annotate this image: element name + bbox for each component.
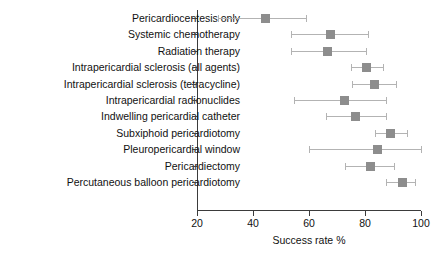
ci-lower-cap bbox=[345, 163, 346, 170]
data-point-marker bbox=[366, 162, 375, 171]
ci-upper-cap bbox=[383, 64, 384, 71]
ci-lower-cap bbox=[352, 81, 353, 88]
x-tick-mark bbox=[309, 211, 310, 216]
ci-upper-cap bbox=[386, 97, 387, 104]
data-point-marker bbox=[373, 145, 382, 154]
ci-upper-cap bbox=[415, 179, 416, 186]
ci-upper-cap bbox=[368, 31, 369, 38]
table-row: Pericardiectomy bbox=[0, 158, 436, 174]
confidence-interval-line bbox=[309, 149, 421, 150]
data-point-marker bbox=[351, 112, 360, 121]
y-axis-tick bbox=[192, 51, 197, 52]
row-label-2: Radiation therapy bbox=[158, 43, 240, 59]
ci-lower-cap bbox=[291, 48, 292, 55]
data-point-marker bbox=[323, 47, 332, 56]
table-row: Indwelling pericardial catheter bbox=[0, 108, 436, 124]
table-row: Subxiphoid pericardiotomy bbox=[0, 125, 436, 141]
row-label-4: Intrapericardial sclerosis (tetracycline… bbox=[64, 76, 240, 92]
ci-lower-cap bbox=[351, 64, 352, 71]
ci-upper-cap bbox=[396, 81, 397, 88]
data-point-marker bbox=[386, 129, 395, 138]
plot-area: Pericardiocentesis onlySystemic chemothe… bbox=[0, 0, 436, 257]
ci-upper-cap bbox=[421, 146, 422, 153]
x-tick-label: 80 bbox=[359, 217, 371, 229]
ci-upper-cap bbox=[386, 113, 387, 120]
ci-upper-cap bbox=[366, 48, 367, 55]
table-row: Radiation therapy bbox=[0, 43, 436, 59]
table-row: Pericardiocentesis only bbox=[0, 10, 436, 26]
y-axis-tick bbox=[192, 133, 197, 134]
ci-lower-cap bbox=[291, 31, 292, 38]
ci-lower-cap bbox=[326, 113, 327, 120]
row-label-9: Pericardiectomy bbox=[165, 158, 240, 174]
row-label-5: Intrapericardial radionuclides bbox=[106, 92, 240, 108]
table-row: Systemic chemotherapy bbox=[0, 26, 436, 42]
forest-plot-figure: Pericardiocentesis onlySystemic chemothe… bbox=[0, 0, 436, 257]
data-point-marker bbox=[362, 63, 371, 72]
row-label-8: Pleuropericardial window bbox=[123, 141, 240, 157]
y-axis-tick bbox=[192, 149, 197, 150]
ci-lower-cap bbox=[375, 130, 376, 137]
y-axis-tick bbox=[192, 116, 197, 117]
row-label-7: Subxiphoid pericardiotomy bbox=[116, 125, 240, 141]
ci-upper-cap bbox=[394, 163, 395, 170]
row-label-6: Indwelling pericardial catheter bbox=[101, 108, 240, 124]
table-row: Intrapericardial sclerosis (all agents) bbox=[0, 59, 436, 75]
x-tick-label: 20 bbox=[191, 217, 203, 229]
y-axis-tick bbox=[192, 34, 197, 35]
y-axis-tick bbox=[192, 166, 197, 167]
ci-lower-cap bbox=[386, 179, 387, 186]
row-label-10: Percutaneous balloon pericardiotomy bbox=[67, 174, 240, 190]
data-point-marker bbox=[261, 14, 270, 23]
x-tick-mark bbox=[253, 211, 254, 216]
data-point-marker bbox=[398, 178, 407, 187]
ci-upper-cap bbox=[306, 15, 307, 22]
ci-lower-cap bbox=[309, 146, 310, 153]
y-axis-tick bbox=[192, 18, 197, 19]
table-row: Pleuropericardial window bbox=[0, 141, 436, 157]
y-axis-tick bbox=[192, 100, 197, 101]
x-tick-label: 100 bbox=[412, 217, 430, 229]
y-axis-tick bbox=[192, 67, 197, 68]
table-row: Intrapericardial radionuclides bbox=[0, 92, 436, 108]
y-axis-tick bbox=[192, 84, 197, 85]
data-point-marker bbox=[326, 30, 335, 39]
row-label-1: Systemic chemotherapy bbox=[128, 26, 240, 42]
x-tick-mark bbox=[197, 211, 198, 216]
x-tick-mark bbox=[421, 211, 422, 216]
ci-lower-cap bbox=[218, 15, 219, 22]
ci-lower-cap bbox=[294, 97, 295, 104]
ci-upper-cap bbox=[407, 130, 408, 137]
x-tick-mark bbox=[365, 211, 366, 216]
y-axis-tick bbox=[192, 182, 197, 183]
x-tick-label: 40 bbox=[247, 217, 259, 229]
x-tick-label: 60 bbox=[303, 217, 315, 229]
x-axis-title: Success rate % bbox=[197, 234, 421, 246]
table-row: Intrapericardial sclerosis (tetracycline… bbox=[0, 76, 436, 92]
data-point-marker bbox=[370, 80, 379, 89]
data-point-marker bbox=[340, 96, 349, 105]
row-label-3: Intrapericardial sclerosis (all agents) bbox=[72, 59, 240, 75]
table-row: Percutaneous balloon pericardiotomy bbox=[0, 174, 436, 190]
